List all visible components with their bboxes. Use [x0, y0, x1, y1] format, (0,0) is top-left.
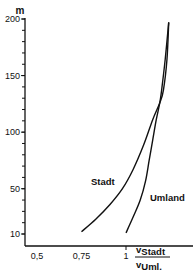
x-axis-label: vStadt vUml.	[135, 244, 170, 272]
y-tick-label: 10	[10, 229, 20, 239]
series-label-umland: Umland	[150, 192, 185, 203]
series-label-stadt: Stadt	[91, 176, 116, 187]
chart: 1050100150200 0,50,751 m Stadt Umland vS…	[0, 0, 193, 274]
x-ticks: 0,50,751	[31, 246, 129, 261]
y-tick-label: 150	[5, 71, 20, 81]
y-tick-label: 100	[5, 127, 20, 137]
x-axis-label-denominator: vUml.	[136, 259, 162, 272]
y-tick-label: 50	[10, 184, 20, 194]
x-axis-label-numerator: vStadt	[136, 244, 166, 257]
y-axis-label: m	[16, 5, 25, 16]
y-ticks: 1050100150200	[5, 14, 25, 239]
x-tick-label: 0,75	[73, 251, 91, 261]
x-tick-label: 0,5	[31, 251, 44, 261]
x-tick-label: 1	[123, 251, 128, 261]
